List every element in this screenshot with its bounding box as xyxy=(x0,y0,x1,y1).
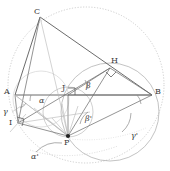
vertex-label-A: A xyxy=(4,88,10,96)
arc-alpha-prime xyxy=(36,143,62,152)
triangle-ABC xyxy=(15,17,152,95)
side-CB xyxy=(40,17,152,95)
segment-CI xyxy=(18,17,40,123)
angle-label-beta-prime: β' xyxy=(85,115,92,123)
geometry-diagram: C A B H J I P α α' β β' γ γ' xyxy=(0,0,170,171)
right-angle-markers xyxy=(17,72,116,126)
vertex-label-C: C xyxy=(34,8,40,16)
arc-gamma-prime xyxy=(122,113,131,132)
side-AC xyxy=(15,17,40,95)
segment-PC xyxy=(40,17,68,136)
vertex-label-I: I xyxy=(9,119,12,127)
vertex-label-P: P xyxy=(64,139,69,147)
arc-angle-B xyxy=(137,95,141,104)
diagram-canvas xyxy=(0,0,170,171)
tick-I-ext xyxy=(10,114,26,132)
vertex-label-B: B xyxy=(155,88,161,96)
arc-dotted-lower xyxy=(30,128,146,156)
angle-label-gamma: γ xyxy=(3,108,8,116)
vertex-label-H: H xyxy=(111,57,118,65)
angle-label-gamma-prime: γ' xyxy=(131,132,138,140)
auxiliary-segments xyxy=(15,17,152,136)
angle-label-beta: β xyxy=(86,82,91,90)
angle-label-alpha-prime: α' xyxy=(31,153,39,161)
arc-alpha xyxy=(30,95,31,101)
vertex-label-J: J xyxy=(62,84,65,92)
angle-label-alpha: α xyxy=(39,97,44,105)
segment-HB xyxy=(110,68,152,95)
